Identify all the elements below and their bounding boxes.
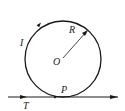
wire-arrow-right-icon <box>110 95 118 99</box>
radius-line <box>63 31 87 58</box>
label-radius-R: R <box>68 24 75 35</box>
tangent-point-dot <box>54 96 56 98</box>
current-direction-arrow-icon <box>37 23 42 28</box>
wire-arrow-left-icon <box>20 95 27 99</box>
label-center-O: O <box>53 56 60 67</box>
label-point-P: P <box>60 84 67 95</box>
label-line-T: T <box>23 100 30 111</box>
label-current-I: I <box>19 37 24 48</box>
circle-current-diagram: I R O P T <box>0 0 125 111</box>
